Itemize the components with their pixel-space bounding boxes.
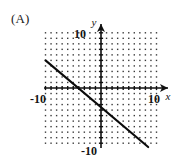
grid-dot [134, 82, 135, 83]
grid-dot [128, 71, 129, 72]
grid-dot [117, 93, 118, 94]
grid-dot [95, 54, 96, 55]
plot-area: 10 -10 -10 10 y x [0, 0, 183, 164]
grid-dot [134, 93, 135, 94]
grid-dot [56, 131, 57, 132]
grid-dot [128, 98, 129, 99]
grid-dot [123, 60, 124, 61]
grid-dot [111, 109, 112, 110]
grid-dot [67, 38, 68, 39]
grid-dot [67, 131, 68, 132]
grid-dot [50, 98, 51, 99]
grid-dot [89, 32, 90, 33]
grid-dot [117, 32, 118, 33]
grid-dot [150, 65, 151, 66]
grid-dot [156, 120, 157, 121]
grid-dot [95, 65, 96, 66]
grid-dot [128, 65, 129, 66]
grid-dot [150, 109, 151, 110]
grid-dot [139, 104, 140, 105]
grid-dot [45, 32, 46, 33]
grid-dot [95, 49, 96, 50]
grid-dot [84, 60, 85, 61]
grid-dot [128, 137, 129, 138]
grid-dot [150, 143, 151, 144]
grid-dot [56, 38, 57, 39]
grid-dot [139, 60, 140, 61]
grid-dot [145, 43, 146, 44]
grid-dot [139, 43, 140, 44]
grid-dot [56, 120, 57, 121]
grid-dot [134, 115, 135, 116]
grid-dot [61, 76, 62, 77]
grid-dot [84, 120, 85, 121]
x-tick-label-neg10: -10 [30, 92, 46, 106]
grid-dot [139, 32, 140, 33]
grid-dot [111, 126, 112, 127]
grid-dot [50, 60, 51, 61]
grid-dot [61, 38, 62, 39]
grid-dot [78, 82, 79, 83]
grid-dot [134, 98, 135, 99]
grid-dot [61, 126, 62, 127]
grid-dot [67, 120, 68, 121]
grid-dot [61, 109, 62, 110]
grid-dot [106, 143, 107, 144]
grid-dot [89, 104, 90, 105]
grid-dot [128, 60, 129, 61]
grid-dot [73, 131, 74, 132]
grid-dot [111, 104, 112, 105]
coordinate-plane-svg: 10 -10 -10 10 y x [0, 0, 183, 164]
grid-dot [56, 109, 57, 110]
grid-dot [84, 137, 85, 138]
grid-dot [111, 120, 112, 121]
grid-dot [156, 131, 157, 132]
grid-dot [56, 104, 57, 105]
grid-dot [111, 60, 112, 61]
y-tick-label-neg10: -10 [81, 144, 97, 158]
grid-dot [50, 104, 51, 105]
grid-dot [89, 54, 90, 55]
grid-dot [145, 104, 146, 105]
grid-dot [95, 120, 96, 121]
grid-dot [145, 82, 146, 83]
grid-dot [139, 115, 140, 116]
grid-dot [139, 98, 140, 99]
grid-dot [61, 71, 62, 72]
grid-dot [145, 137, 146, 138]
grid-dot [73, 98, 74, 99]
grid-dot [61, 104, 62, 105]
grid-dot [45, 115, 46, 116]
grid-dot [95, 60, 96, 61]
x-tick-label-10: 10 [148, 92, 160, 106]
grid-dot [84, 104, 85, 105]
grid-dot [145, 49, 146, 50]
grid-dot [78, 65, 79, 66]
grid-dot [67, 93, 68, 94]
grid-dot [139, 131, 140, 132]
grid-dot [73, 104, 74, 105]
grid-dot [67, 115, 68, 116]
grid-dot [50, 71, 51, 72]
grid-dot [117, 115, 118, 116]
grid-dot [156, 60, 157, 61]
grid-dot [145, 98, 146, 99]
grid-dot [84, 98, 85, 99]
grid-dot [89, 131, 90, 132]
grid-dot [106, 115, 107, 116]
grid-dot [84, 109, 85, 110]
grid-dot [45, 54, 46, 55]
grid-dot [95, 93, 96, 94]
grid-dot [84, 49, 85, 50]
grid-dot [106, 82, 107, 83]
grid-dot [56, 143, 57, 144]
grid-dot [95, 98, 96, 99]
grid-dot [106, 98, 107, 99]
grid-dot [156, 126, 157, 127]
grid-dot [117, 82, 118, 83]
figure-root: (A) 10 -10 -10 10 y x [0, 0, 183, 164]
grid-dot [139, 143, 140, 144]
grid-dot [45, 120, 46, 121]
linear-function-line [46, 60, 149, 147]
grid-dot [56, 82, 57, 83]
